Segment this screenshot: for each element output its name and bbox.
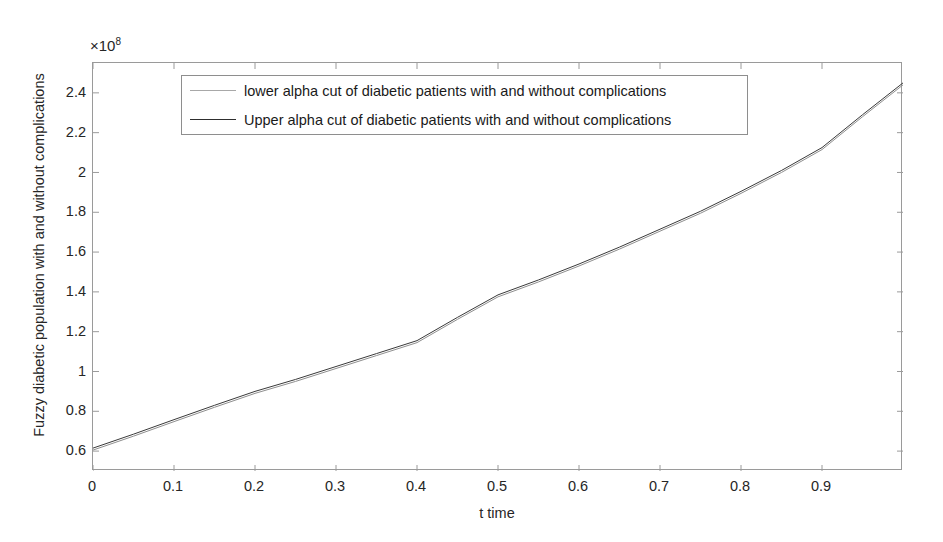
legend-item[interactable]: Upper alpha cut of diabetic patients wit… [182,105,747,134]
x-axis-tick-label: 0.9 [791,478,851,494]
x-axis-tick-label: 0.2 [224,478,284,494]
legend-box: lower alpha cut of diabetic patients wit… [181,75,748,135]
x-axis-tick-label: 0.7 [629,478,689,494]
figure-canvas: Fuzzy diabetic population with and witho… [0,0,943,542]
legend-line-swatch-icon [190,119,236,120]
y-axis-tick-label: 1.8 [40,203,86,219]
x-axis-label: t time [92,505,902,521]
series-line-0 [93,85,903,450]
y-axis-tick-label: 0.6 [40,442,86,458]
y-axis-tick-label: 2 [40,164,86,180]
series-line-1 [93,83,903,448]
x-axis-tick-label: 0.3 [305,478,365,494]
x-axis-tick-label: 0.1 [143,478,203,494]
y-axis-tick-label: 1.4 [40,283,86,299]
legend-item-label: Upper alpha cut of diabetic patients wit… [244,112,671,128]
y-axis-tick-label: 1.2 [40,323,86,339]
x-axis-tick-label: 0.6 [548,478,608,494]
y-axis-tick-label: 0.8 [40,402,86,418]
y-axis-exponent-label: ×108 [90,36,121,54]
x-axis-tick-labels: 00.10.20.30.40.50.60.70.80.9 [92,478,902,500]
y-axis-exponent-power: 8 [115,36,121,47]
legend-item-label: lower alpha cut of diabetic patients wit… [244,83,666,99]
legend-item[interactable]: lower alpha cut of diabetic patients wit… [182,76,747,105]
y-axis-tick-label: 1 [40,363,86,379]
legend-line-swatch-icon [190,90,236,91]
y-axis-tick-label: 2.4 [40,84,86,100]
x-axis-tick-label: 0 [62,478,122,494]
y-axis-exponent-base: ×10 [90,37,115,54]
x-axis-tick-label: 0.8 [710,478,770,494]
y-axis-tick-label: 1.6 [40,243,86,259]
x-axis-tick-label: 0.5 [467,478,527,494]
x-axis-tick-label: 0.4 [386,478,446,494]
y-axis-tick-label: 2.2 [40,124,86,140]
y-axis-tick-labels: 0.60.811.21.41.61.822.22.4 [36,62,86,470]
